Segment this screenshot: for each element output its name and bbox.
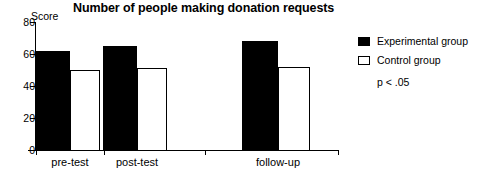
legend-label: Control group: [377, 55, 441, 66]
bar-post-test-control: [137, 68, 167, 151]
y-tick-label: 20: [11, 113, 35, 124]
significance-note: p < .05: [377, 77, 484, 88]
legend-swatch-icon: [358, 37, 370, 46]
legend-swatch-icon: [358, 56, 370, 65]
donation-requests-bar-chart: Number of people making donation request…: [0, 0, 484, 177]
legend-items: Experimental groupControl group: [358, 33, 484, 69]
legend-item-experimental: Experimental group: [358, 33, 484, 50]
bar-post-test-experimental: [103, 46, 137, 151]
legend-item-control: Control group: [358, 52, 484, 69]
x-axis-label-follow-up: follow-up: [233, 156, 323, 168]
bar-pre-test-control: [70, 70, 100, 151]
x-axis-label-post-test: post-test: [92, 156, 182, 168]
chart-legend: Experimental groupControl group p < .05: [358, 33, 484, 88]
bar-pre-test-experimental: [36, 51, 70, 151]
x-tick-mark: [338, 150, 339, 155]
y-tick-label: 60: [11, 49, 35, 60]
y-tick-label: 80: [11, 17, 35, 28]
x-tick-mark: [205, 150, 206, 155]
y-tick-label: 0: [11, 145, 35, 156]
bar-follow-up-experimental: [242, 41, 278, 151]
legend-label: Experimental group: [377, 36, 468, 47]
plot-area: 020406080 pre-testpost-testfollow-up: [0, 0, 360, 177]
y-tick-label: 40: [11, 81, 35, 92]
bar-follow-up-control: [278, 67, 310, 151]
